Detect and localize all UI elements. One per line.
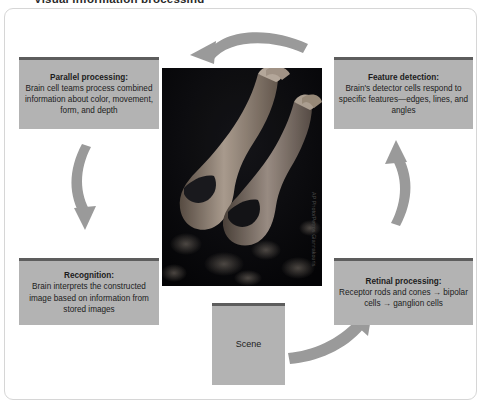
box-retinal-processing: Retinal processing: Receptor rods and co… bbox=[334, 258, 473, 325]
box-retinal-body: Receptor rods and cones → bipolar cells … bbox=[339, 288, 468, 308]
box-scene: Scene bbox=[212, 303, 285, 385]
box-parallel-heading: Parallel processing: bbox=[50, 73, 128, 82]
diagram-canvas: Visual information processing bbox=[0, 0, 485, 410]
arrow-top-icon bbox=[170, 14, 315, 66]
diver-photograph bbox=[162, 68, 322, 286]
box-feature-body: Brain's detector cells respond to specif… bbox=[339, 84, 468, 115]
page-title-cropped: Visual information processing bbox=[0, 0, 485, 3]
box-parallel-body: Brain cell teams process combined inform… bbox=[25, 84, 153, 115]
box-feature-heading: Feature detection: bbox=[368, 73, 439, 82]
box-retinal-heading: Retinal processing: bbox=[366, 277, 442, 286]
box-recognition-body: Brain interprets the constructed image b… bbox=[29, 282, 149, 313]
arrow-left-icon bbox=[52, 136, 118, 234]
box-feature-detection: Feature detection: Brain's detector cell… bbox=[334, 57, 473, 129]
box-scene-label: Scene bbox=[236, 339, 262, 349]
page-title-text: Visual information processing bbox=[0, 0, 485, 3]
box-recognition: Recognition: Brain interprets the constr… bbox=[19, 258, 159, 325]
arrow-right-icon bbox=[366, 136, 432, 234]
box-recognition-heading: Recognition: bbox=[64, 271, 114, 280]
photo-credit: AP Photo/Petros Giannakouris bbox=[309, 192, 318, 282]
box-parallel-processing: Parallel processing: Brain cell teams pr… bbox=[19, 57, 159, 129]
